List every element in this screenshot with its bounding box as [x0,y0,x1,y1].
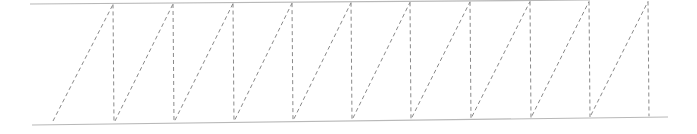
vertical-dashed-line [233,4,234,122]
diagonal-dashed-line [472,2,530,117]
diagonal-dashed-line [294,3,351,119]
vertical-dashed-line [470,2,471,119]
diagonal-dashed-line [53,4,113,121]
diagonal-dashed-line [532,2,589,116]
bottom-rail-line [32,117,668,125]
vertical-dashed-line [351,3,352,120]
diagonal-dashed-line [591,2,648,115]
vertical-dashed-line [292,3,293,121]
vertical-dashed-line [648,2,649,117]
diagonal-dashed-line [235,3,292,119]
vertical-dashed-line [113,4,114,123]
vertical-dashed-line [530,2,531,118]
vertical-dashed-line [173,4,174,122]
top-rail-line [30,0,590,4]
zigzag-truss-diagram [0,0,697,134]
dashed-sawtooth-group [53,2,649,123]
vertical-dashed-line [589,2,590,117]
vertical-dashed-line [410,2,411,119]
diagram-canvas [0,0,697,134]
diagonal-dashed-line [175,4,233,121]
diagonal-dashed-line [353,2,410,118]
diagonal-dashed-line [412,2,470,117]
diagonal-dashed-line [115,4,173,121]
